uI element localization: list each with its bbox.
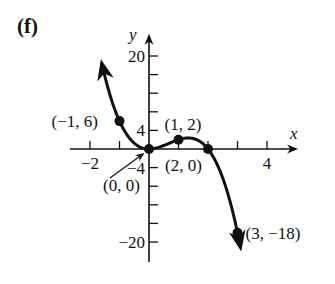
y-axis-label: y: [127, 25, 137, 44]
y-tick-label: 4: [137, 121, 146, 140]
point-annotations: (−1, 6)(0, 0)(1, 2)(2, 0)(3, −18): [52, 112, 301, 243]
point-label: (0, 0): [103, 176, 140, 195]
data-point: [233, 228, 243, 238]
data-point: [174, 135, 184, 145]
data-point: [203, 144, 213, 154]
x-tick-label: 4: [263, 154, 272, 173]
function-graph: xy−24204−4−20 (−1, 6)(0, 0)(1, 2)(2, 0)(…: [0, 0, 335, 284]
data-point: [115, 116, 125, 126]
point-label: (−1, 6): [52, 112, 98, 131]
y-tick-label: −4: [127, 159, 146, 178]
data-point: [144, 144, 154, 154]
y-tick-label: 20: [128, 47, 145, 66]
point-label: (2, 0): [165, 156, 202, 175]
x-axis-label: x: [289, 124, 298, 143]
x-tick-label: −2: [81, 154, 99, 173]
point-label: (3, −18): [246, 224, 301, 243]
y-tick-label: −20: [118, 233, 145, 252]
point-label: (1, 2): [165, 115, 202, 134]
